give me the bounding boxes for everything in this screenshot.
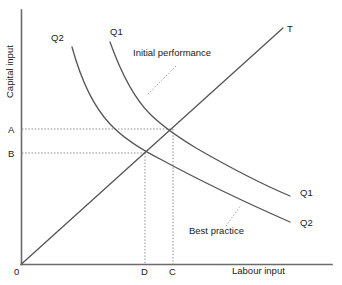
isoquant-curve-q1	[110, 42, 290, 196]
annotation-best-practice: Best practice	[189, 225, 244, 236]
curve-label-q1-top: Q1	[110, 26, 123, 37]
isoquant-chart-figure: Capital input Labour input 0 A B D C Q2 …	[0, 0, 342, 285]
curve-label-q2-right: Q2	[300, 217, 313, 228]
isoquant-curve-q2	[72, 47, 290, 222]
origin-label: 0	[14, 266, 19, 277]
annotation-leaders-group	[147, 66, 241, 226]
x-axis-title: Labour input	[232, 265, 285, 276]
leader-line-initial-performance	[147, 66, 176, 95]
curve-label-q2-top: Q2	[51, 32, 64, 43]
x-tick-label-d: D	[141, 266, 148, 277]
y-tick-label-b: B	[8, 148, 14, 159]
curve-label-ray-t: T	[287, 23, 293, 34]
y-axis-title: Capital input	[4, 45, 15, 98]
y-tick-label-a: A	[8, 124, 15, 135]
x-tick-label-c: C	[169, 266, 176, 277]
annotation-initial-performance: Initial performance	[133, 47, 211, 58]
leader-line-best-practice	[226, 205, 241, 226]
curve-label-q1-right: Q1	[300, 187, 313, 198]
chart-svg: Capital input Labour input 0 A B D C Q2 …	[0, 0, 342, 285]
